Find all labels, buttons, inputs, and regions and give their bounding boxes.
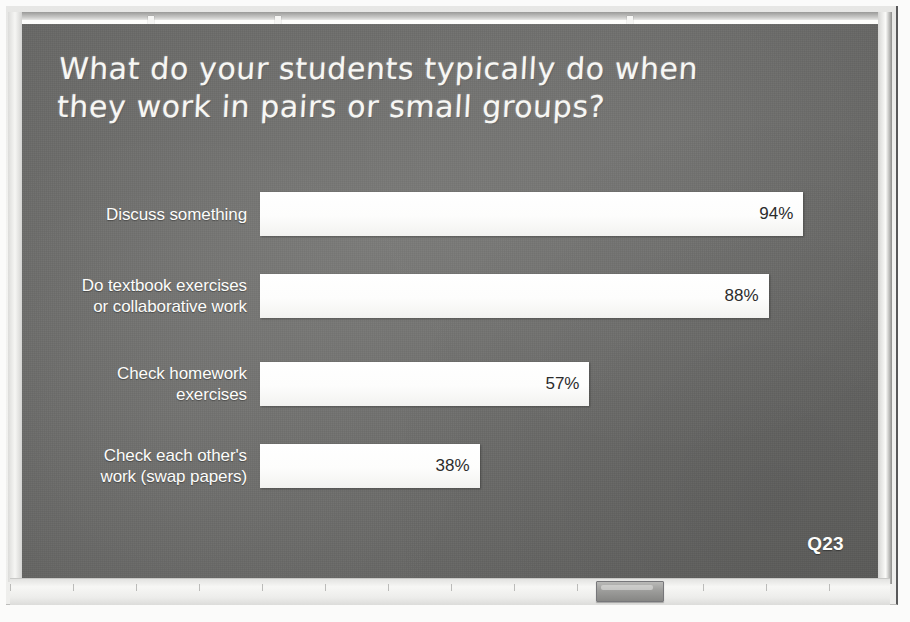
bar: 38% — [260, 444, 480, 488]
category-label-line-1: Check each other's — [104, 446, 247, 465]
chalkboard-surface: What do your students typically do when … — [22, 24, 878, 579]
eraser-icon — [596, 581, 664, 602]
bar-track: 88% — [260, 274, 878, 318]
page-title-line-1: What do your students typically do when — [58, 50, 860, 88]
bar: 88% — [260, 274, 769, 318]
category-label-line-2: work (swap papers) — [22, 466, 247, 487]
category-label: Check homework exercises — [22, 363, 260, 405]
category-label-line-1: Check homework — [117, 364, 247, 383]
chart-row: Check each other's work (swap papers) 38… — [22, 444, 878, 488]
chalk-tray-ticks — [10, 584, 890, 591]
bar-track: 94% — [260, 192, 878, 236]
category-label-line-2: exercises — [22, 384, 247, 405]
chalk-tray — [10, 578, 890, 605]
category-label: Do textbook exercises or collaborative w… — [22, 275, 260, 317]
category-label-line-2: or collaborative work — [22, 296, 247, 317]
bar-value-label: 94% — [759, 204, 803, 224]
bar-value-label: 88% — [725, 286, 769, 306]
page-title: What do your students typically do when … — [56, 50, 860, 126]
page-title-line-2: they work in pairs or small groups? — [56, 88, 858, 126]
bar-value-label: 57% — [545, 374, 589, 394]
bar: 57% — [260, 362, 589, 406]
bar: 94% — [260, 192, 803, 236]
chart-row: Do textbook exercises or collaborative w… — [22, 274, 878, 318]
board-left-rail — [8, 12, 22, 582]
category-label-line-1: Do textbook exercises — [82, 276, 247, 295]
question-tag: Q23 — [807, 533, 844, 555]
bar-value-label: 38% — [436, 456, 480, 476]
category-label: Discuss something — [22, 204, 260, 225]
chart-row: Check homework exercises 57% — [22, 362, 878, 406]
bar-track: 38% — [260, 444, 878, 488]
bar-track: 57% — [260, 362, 878, 406]
slide-root: What do your students typically do when … — [0, 0, 910, 622]
category-label: Check each other's work (swap papers) — [22, 445, 260, 487]
chart-row: Discuss something 94% — [22, 192, 878, 236]
bar-chart: Discuss something 94% Do textbook exerci… — [22, 174, 878, 504]
board-right-rail — [878, 12, 892, 584]
category-label-line-1: Discuss something — [106, 205, 247, 224]
